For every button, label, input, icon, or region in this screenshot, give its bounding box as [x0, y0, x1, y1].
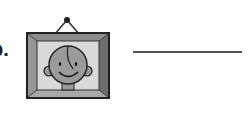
question-label: b. [0, 38, 9, 61]
answer-blank-line[interactable] [133, 51, 242, 53]
picture-frame-illustration [26, 14, 110, 100]
picture-frame-icon [26, 14, 110, 100]
